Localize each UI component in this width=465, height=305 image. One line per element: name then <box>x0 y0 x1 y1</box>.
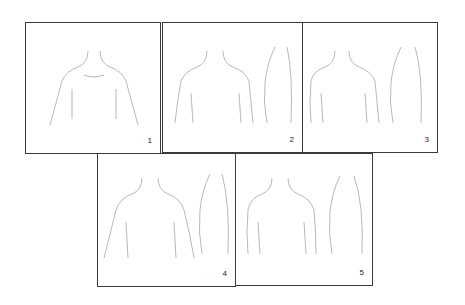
torso-front-outline <box>26 23 160 153</box>
panel-label: 2 <box>290 135 294 144</box>
torso-front-and-side-outline <box>163 23 302 152</box>
panel-label: 1 <box>148 136 152 145</box>
torso-front-and-side-outline <box>98 154 235 286</box>
torso-front-and-side-outline <box>236 154 372 285</box>
panel-label: 4 <box>223 269 227 278</box>
panel-2: 2 <box>162 22 303 153</box>
panel-3: 3 <box>302 22 438 153</box>
torso-front-and-side-outline <box>303 23 437 152</box>
panel-label: 3 <box>425 135 429 144</box>
panel-label: 5 <box>360 268 364 277</box>
panel-1: 1 <box>25 22 161 154</box>
panel-4: 4 <box>97 153 236 287</box>
panel-5: 5 <box>235 153 373 286</box>
